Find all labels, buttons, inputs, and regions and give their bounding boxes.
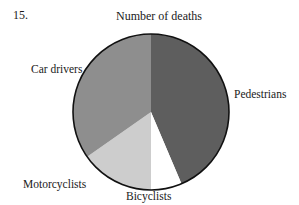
label-car-drivers: Car drivers xyxy=(31,63,82,75)
label-pedestrians: Pedestrians xyxy=(234,88,286,100)
pie-chart xyxy=(0,0,299,205)
label-bicyclists: Bicyclists xyxy=(126,190,171,202)
label-motorcyclists: Motorcyclists xyxy=(23,178,86,190)
